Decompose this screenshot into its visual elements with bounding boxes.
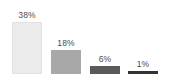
bar[interactable]	[51, 50, 81, 74]
bar[interactable]	[12, 22, 42, 74]
bar-value-label: 18%	[45, 38, 87, 48]
bar-value-label: 1%	[122, 59, 164, 69]
bar[interactable]	[90, 66, 120, 74]
plot-area: 38% 18% 6% 1%	[0, 0, 170, 80]
bar-value-label: 6%	[84, 54, 126, 64]
bar[interactable]	[128, 71, 158, 74]
bar-chart: 38% 18% 6% 1%	[0, 0, 170, 80]
bar-value-label: 38%	[6, 10, 48, 20]
